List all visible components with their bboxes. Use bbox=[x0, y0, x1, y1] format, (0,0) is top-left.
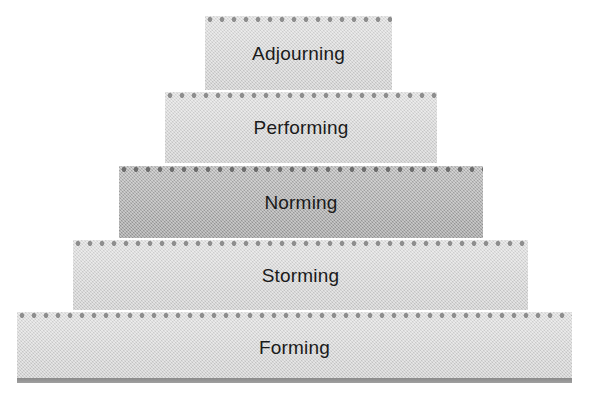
pyramid-tier-label-norming: Norming bbox=[264, 193, 337, 212]
pyramid-tier-adjourning[interactable]: Adjourning bbox=[205, 16, 392, 90]
perforated-edge-icon bbox=[165, 92, 437, 99]
diagram-canvas: Adjourning Performing Norming Storming F… bbox=[0, 0, 601, 406]
pyramid-tier-label-performing: Performing bbox=[254, 118, 349, 137]
pyramid-tier-norming[interactable]: Norming bbox=[119, 166, 483, 238]
perforated-edge-icon bbox=[119, 166, 483, 173]
pyramid-tier-forming[interactable]: Forming bbox=[17, 312, 572, 383]
perforated-edge-icon bbox=[73, 240, 528, 247]
pyramid-tier-label-storming: Storming bbox=[262, 266, 340, 285]
perforated-edge-icon bbox=[17, 312, 572, 319]
pyramid-tier-label-forming: Forming bbox=[259, 338, 330, 357]
pyramid-tier-label-adjourning: Adjourning bbox=[252, 44, 345, 63]
pyramid-base-bar bbox=[17, 378, 572, 383]
perforated-edge-icon bbox=[205, 16, 392, 23]
pyramid-tier-storming[interactable]: Storming bbox=[73, 240, 528, 310]
pyramid-tier-performing[interactable]: Performing bbox=[165, 92, 437, 163]
